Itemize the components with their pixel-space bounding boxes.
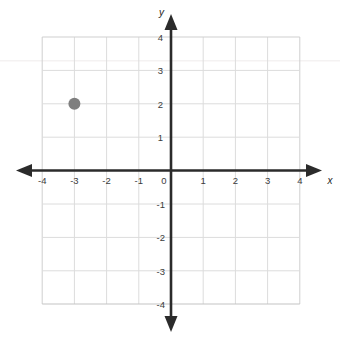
y-tick-label: 4 (158, 32, 163, 43)
y-tick-label: 1 (158, 132, 163, 143)
y-axis-arrow-up (165, 14, 178, 30)
x-tick-label: -4 (38, 175, 46, 186)
y-tick-label: 2 (158, 99, 163, 110)
x-tick-label: 1 (201, 175, 206, 186)
coordinate-plane-figure: -4 -3 -2 -1 0 1 2 3 4 4 3 2 1 -1 -2 -3 -… (0, 0, 340, 344)
y-tick-label: -4 (157, 299, 165, 310)
data-point-group[interactable] (68, 98, 80, 110)
origin-label: 0 (161, 175, 166, 186)
x-tick-label: -3 (70, 175, 78, 186)
x-tick-label: 2 (233, 175, 238, 186)
x-axis-arrow-left (16, 164, 32, 177)
y-tick-label: -3 (157, 266, 165, 277)
y-tick-label: -2 (157, 232, 165, 243)
x-tick-label: 3 (265, 175, 270, 186)
coordinate-grid-svg: -4 -3 -2 -1 0 1 2 3 4 4 3 2 1 -1 -2 -3 -… (0, 0, 340, 344)
y-axis-arrow-down (165, 316, 178, 332)
y-tick-label: 3 (158, 65, 163, 76)
y-tick-label: -1 (157, 199, 165, 210)
x-tick-label: -2 (102, 175, 110, 186)
plotted-point-marker[interactable] (68, 98, 80, 110)
x-axis-label: x (327, 175, 334, 186)
y-axis-label: y (158, 7, 165, 18)
x-tick-label: 4 (297, 175, 302, 186)
axes (16, 14, 322, 332)
x-axis-arrow-right (306, 164, 322, 177)
x-tick-label: -1 (135, 175, 143, 186)
